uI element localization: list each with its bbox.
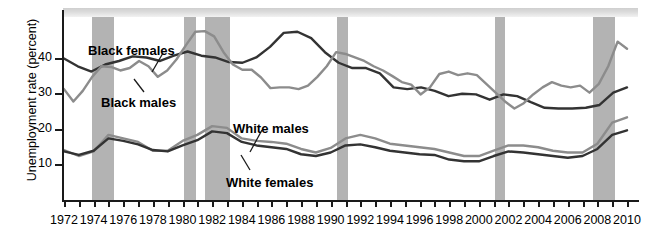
white-females-label: White females (226, 175, 313, 190)
top-gray-strip (63, 8, 638, 17)
x-tick-minor (523, 200, 525, 207)
x-tick (183, 200, 185, 207)
x-tick-minor (612, 200, 614, 207)
x-tick (242, 200, 244, 207)
x-tick-minor (197, 200, 199, 207)
x-tick (420, 200, 422, 207)
x-tick-minor (583, 200, 585, 207)
x-tick-minor (108, 200, 110, 207)
x-tick (390, 200, 392, 207)
x-tick (212, 200, 214, 207)
x-tick-minor (316, 200, 318, 207)
x-tick-minor (375, 200, 377, 207)
x-tick (153, 200, 155, 207)
x-tick (597, 200, 599, 207)
x-tick-minor (286, 200, 288, 207)
x-tick (123, 200, 125, 207)
x-tick (301, 200, 303, 207)
y-tick-label: 10 (12, 156, 52, 170)
x-tick-minor (227, 200, 229, 207)
x-tick-minor (494, 200, 496, 207)
series-line-white-males (64, 117, 627, 156)
y-tick-label: 30 (12, 85, 52, 99)
x-tick (94, 200, 96, 207)
black-females-label: Black females (88, 43, 175, 58)
x-tick-minor (79, 200, 81, 207)
x-tick (331, 200, 333, 207)
y-tick-label: 40 (12, 50, 52, 64)
y-tick (55, 93, 63, 95)
y-tick-label: 20 (12, 121, 52, 135)
x-tick-minor (346, 200, 348, 207)
x-tick (360, 200, 362, 207)
series-line-white-females (64, 130, 627, 161)
y-tick (55, 164, 63, 166)
black-males-label: Black males (101, 95, 176, 110)
x-tick (508, 200, 510, 207)
x-tick-minor (138, 200, 140, 207)
x-tick-minor (464, 200, 466, 207)
x-tick-minor (257, 200, 259, 207)
x-tick (64, 200, 66, 207)
y-axis-line (62, 10, 64, 202)
x-tick-minor (434, 200, 436, 207)
x-tick (449, 200, 451, 207)
x-tick (479, 200, 481, 207)
x-tick-minor (553, 200, 555, 207)
y-tick (55, 58, 63, 60)
x-tick (538, 200, 540, 207)
x-tick-minor (168, 200, 170, 207)
x-tick (271, 200, 273, 207)
x-tick-label: 2010 (607, 213, 645, 227)
white-males-label: White males (233, 121, 309, 136)
x-tick (568, 200, 570, 207)
x-tick-minor (405, 200, 407, 207)
y-tick (55, 129, 63, 131)
x-tick (627, 200, 629, 207)
unemployment-rate-chart: Unemployment rate (percent) 102030401972… (0, 0, 645, 246)
